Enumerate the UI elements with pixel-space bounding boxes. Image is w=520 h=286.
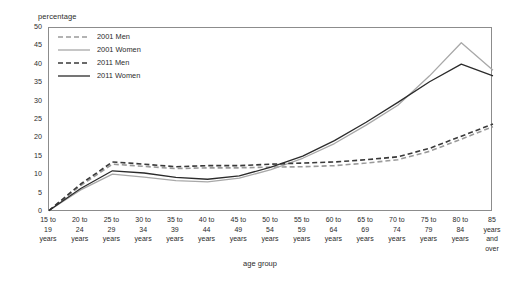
legend-label: 2001 Women: [97, 45, 141, 54]
legend-item[interactable]: 2001 Men: [58, 30, 208, 43]
legend-item[interactable]: 2011 Women: [58, 69, 208, 82]
y-tick-label: 25: [16, 115, 42, 123]
x-axis-title: age group: [0, 259, 520, 268]
x-tick-label: 35 to 39 years: [159, 215, 191, 244]
x-tick-label: 85 years and over: [476, 215, 508, 253]
legend-swatch-icon: [58, 72, 90, 80]
x-tick-label: 65 to 69 years: [349, 215, 381, 244]
chart-legend: 2001 Men2001 Women2011 Men2011 Women: [58, 30, 208, 82]
legend-item[interactable]: 2001 Women: [58, 43, 208, 56]
legend-label: 2011 Men: [97, 58, 129, 67]
x-tick-label: 40 to 44 years: [191, 215, 223, 244]
y-tick-label: 20: [16, 133, 42, 141]
x-tick-label: 50 to 54 years: [254, 215, 286, 244]
y-tick-label: 0: [16, 207, 42, 215]
x-tick-label: 30 to 34 years: [127, 215, 159, 244]
x-tick-label: 55 to 59 years: [286, 215, 318, 244]
x-tick-label: 45 to 49 years: [222, 215, 254, 244]
legend-label: 2001 Men: [97, 32, 130, 41]
y-tick-label: 10: [16, 170, 42, 178]
y-tick-label: 50: [16, 23, 42, 31]
y-tick-label: 15: [16, 152, 42, 160]
x-tick-label: 15 to 19 years: [32, 215, 64, 244]
y-tick-label: 35: [16, 78, 42, 86]
legend-item[interactable]: 2011 Men: [58, 56, 208, 69]
y-tick-label: 30: [16, 97, 42, 105]
y-tick-label: 40: [16, 60, 42, 68]
y-axis-title: percentage: [38, 12, 77, 21]
legend-swatch-icon: [58, 33, 90, 41]
x-tick-label: 25 to 29 years: [95, 215, 127, 244]
x-tick-label: 70 to 74 years: [381, 215, 413, 244]
series-line: [49, 127, 493, 211]
x-tick-label: 60 to 64 years: [317, 215, 349, 244]
x-tick-label: 75 to 79 years: [413, 215, 445, 244]
y-tick-label: 5: [16, 189, 42, 197]
series-line: [49, 64, 493, 210]
x-tick-label: 80 to 84 years: [444, 215, 476, 244]
x-tick-label: 20 to 24 years: [64, 215, 96, 244]
legend-label: 2011 Women: [97, 71, 140, 80]
legend-swatch-icon: [58, 46, 90, 54]
legend-swatch-icon: [58, 59, 90, 67]
y-tick-label: 45: [16, 41, 42, 49]
line-chart: percentage 50454035302520151050 2001 Men…: [0, 0, 520, 286]
